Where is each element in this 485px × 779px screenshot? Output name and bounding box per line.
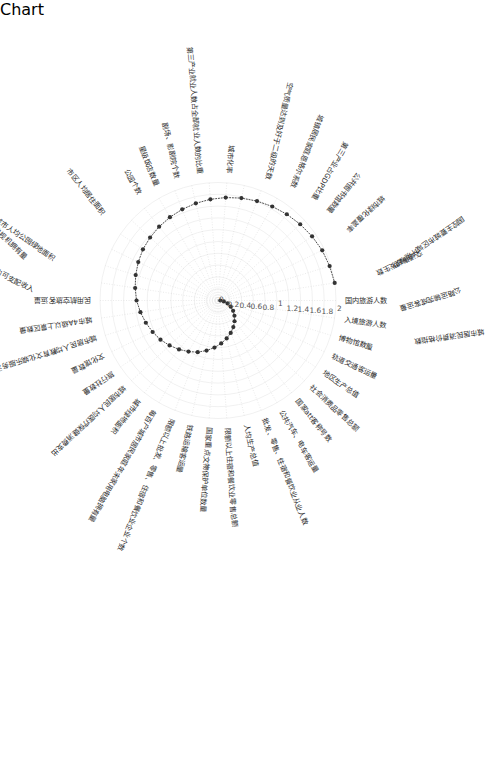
- radial-tick-label: 1.4: [298, 305, 310, 312]
- series-marker: [255, 198, 259, 202]
- radial-tick-label: 1.8: [321, 307, 333, 314]
- series-marker: [232, 313, 236, 317]
- series-marker: [219, 341, 223, 345]
- series-marker: [224, 195, 228, 199]
- radial-tick-label: 0.4: [239, 301, 251, 308]
- series-marker: [136, 260, 140, 264]
- radial-tick-label: 0.6: [251, 302, 263, 309]
- series-marker: [239, 196, 243, 200]
- series-marker: [144, 320, 148, 324]
- radial-tick-label: 0.8: [262, 303, 274, 310]
- radial-tick-label: 1.2: [286, 304, 298, 311]
- radial-tick-label: 0: [219, 296, 224, 303]
- series-marker: [298, 222, 302, 226]
- series-marker: [270, 204, 274, 208]
- axis-category-label: 国内旅游人数: [345, 296, 388, 303]
- radial-tick-label: 2: [337, 304, 342, 311]
- series-marker: [167, 343, 171, 347]
- series-marker: [134, 298, 138, 302]
- series-marker: [138, 310, 142, 314]
- series-marker: [328, 263, 332, 267]
- series-marker: [204, 348, 208, 352]
- radial-tick-label: 1: [278, 300, 283, 307]
- series-marker: [310, 234, 314, 238]
- axis-category-label: 民用航空旅客运量: [34, 296, 91, 303]
- series-marker: [168, 215, 172, 219]
- series-marker: [229, 330, 233, 334]
- axis-category-label: 城市化率: [226, 145, 235, 174]
- radial-tick-label: 0.2: [227, 300, 239, 307]
- series-marker: [186, 349, 190, 353]
- series-marker: [196, 350, 200, 354]
- series-marker: [212, 345, 216, 349]
- series-marker: [134, 273, 138, 277]
- series-marker: [208, 197, 212, 201]
- series-marker: [231, 324, 235, 328]
- series-marker: [158, 337, 162, 341]
- series-marker: [180, 207, 184, 211]
- series-marker: [151, 329, 155, 333]
- radial-tick-label: 1.6: [310, 306, 322, 313]
- series-marker: [194, 201, 198, 205]
- series-marker: [333, 280, 337, 284]
